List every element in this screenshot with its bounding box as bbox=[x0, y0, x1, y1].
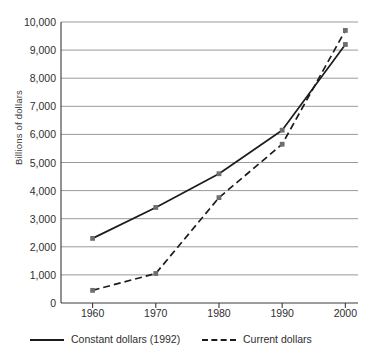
chart-legend: Constant dollars (1992) Current dollars bbox=[0, 333, 378, 353]
chart-figure: Billions of dollars 01,0002,0003,0004,00… bbox=[0, 0, 378, 355]
plot-area bbox=[0, 0, 378, 355]
x-axis-tick-label: 1990 bbox=[270, 307, 293, 319]
legend-item-current-dollars[interactable]: Current dollars bbox=[202, 333, 312, 345]
series-line-1 bbox=[93, 30, 346, 290]
legend-line-solid-icon bbox=[30, 334, 64, 344]
legend-item-constant-dollars[interactable]: Constant dollars (1992) bbox=[30, 333, 180, 345]
x-axis-tick-label: 1960 bbox=[81, 307, 104, 319]
data-point-marker bbox=[280, 142, 285, 147]
x-axis-tick-label: 2000 bbox=[334, 307, 357, 319]
data-point-marker bbox=[153, 271, 158, 276]
data-point-marker bbox=[153, 205, 158, 210]
x-axis-tick-label: 1970 bbox=[144, 307, 167, 319]
legend-label: Current dollars bbox=[243, 333, 312, 345]
data-point-marker bbox=[217, 171, 222, 176]
data-point-marker bbox=[343, 42, 348, 47]
x-axis-tick-labels: 19601970198019902000 bbox=[0, 307, 378, 323]
data-point-marker bbox=[90, 288, 95, 293]
data-point-marker bbox=[343, 28, 348, 33]
data-point-marker bbox=[280, 128, 285, 133]
legend-label: Constant dollars (1992) bbox=[71, 333, 180, 345]
x-axis-tick-label: 1980 bbox=[207, 307, 230, 319]
legend-line-dashed-icon bbox=[202, 334, 236, 344]
data-point-marker bbox=[217, 195, 222, 200]
series-line-0 bbox=[93, 44, 346, 238]
data-point-marker bbox=[90, 236, 95, 241]
